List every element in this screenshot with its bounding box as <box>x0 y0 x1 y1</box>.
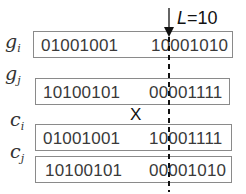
arrow-down-icon <box>164 27 174 37</box>
cut-point-line <box>0 0 246 194</box>
